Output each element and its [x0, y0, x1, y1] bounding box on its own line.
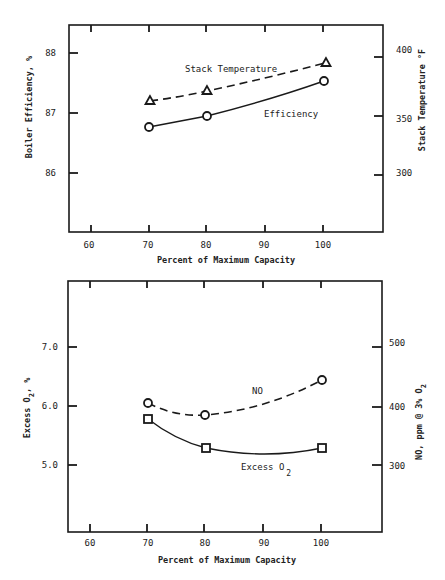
- x-tick-label: 70: [143, 240, 154, 250]
- x-tick-label: 60: [85, 538, 96, 548]
- x-tick-label: 80: [201, 240, 212, 250]
- top-left-y-axis-title: Boiler Efficiency, %: [24, 55, 34, 158]
- y-tick-label: 86: [45, 168, 56, 178]
- efficiency-label: Efficiency: [264, 109, 319, 119]
- circle-marker: [320, 77, 328, 85]
- square-marker: [318, 444, 326, 452]
- top-plot-frame: [69, 25, 383, 232]
- bottom-right-y-axis-title: NO, ppm @ 3% O2: [414, 384, 428, 460]
- top-left-y-ticks: [69, 53, 78, 173]
- top-right-y-ticks: [374, 57, 383, 175]
- no-line: [148, 380, 322, 415]
- stack-temperature-label: Stack Temperature: [185, 64, 277, 74]
- bottom-x-tick-labels: 60 70 80 90 100: [85, 538, 330, 548]
- circle-marker: [144, 399, 152, 407]
- circle-marker: [203, 112, 211, 120]
- efficiency-line: [149, 81, 324, 127]
- x-tick-label: 90: [259, 538, 270, 548]
- y-tick-label: 5.0: [42, 460, 58, 470]
- top-right-y-axis-title: Stack Temperature °F: [417, 49, 427, 151]
- y-right-tick-label: 400: [396, 45, 412, 55]
- x-tick-label: 100: [313, 538, 329, 548]
- x-tick-label: 100: [315, 240, 331, 250]
- top-x-axis-title: Percent of Maximum Capacity: [157, 255, 295, 265]
- top-chart: 60 70 80 90 100 Percent of Maximum Capac…: [24, 25, 427, 265]
- bottom-plot-frame: [68, 281, 382, 532]
- no-label: NO: [252, 386, 263, 396]
- x-tick-label: 70: [143, 538, 154, 548]
- y-right-tick-label: 350: [396, 114, 412, 124]
- square-marker: [202, 444, 210, 452]
- y-right-tick-label: 300: [396, 168, 412, 178]
- x-tick-label: 80: [200, 538, 211, 548]
- figure: 60 70 80 90 100 Percent of Maximum Capac…: [0, 0, 445, 580]
- bottom-x-ticks: [90, 281, 321, 532]
- bottom-left-y-axis-title: Excess O2, %: [22, 377, 36, 438]
- circle-marker: [201, 411, 209, 419]
- y-tick-label: 7.0: [42, 342, 58, 352]
- top-x-tick-labels: 60 70 80 90 100: [84, 240, 332, 250]
- x-tick-label: 60: [84, 240, 95, 250]
- y-right-tick-label: 300: [389, 461, 405, 471]
- triangle-marker: [203, 86, 212, 94]
- bottom-chart: 60 70 80 90 100 Percent of Maximum Capac…: [22, 281, 428, 565]
- bottom-left-y-ticks: [68, 347, 77, 465]
- triangle-marker: [322, 58, 331, 66]
- circle-marker: [145, 123, 153, 131]
- square-marker: [144, 415, 152, 423]
- x-tick-label: 90: [259, 240, 270, 250]
- excess-o2-line: [148, 419, 322, 454]
- y-right-tick-label: 500: [389, 338, 405, 348]
- y-right-tick-label: 400: [389, 402, 405, 412]
- y-tick-label: 88: [45, 48, 56, 58]
- excess-o2-label: Excess O2: [241, 462, 291, 478]
- y-tick-label: 87: [45, 108, 56, 118]
- triangle-marker: [146, 96, 155, 104]
- top-x-ticks: [91, 25, 323, 232]
- circle-marker: [318, 376, 326, 384]
- y-tick-label: 6.0: [42, 401, 58, 411]
- bottom-right-y-ticks: [372, 347, 382, 465]
- bottom-x-axis-title: Percent of Maximum Capacity: [158, 555, 296, 565]
